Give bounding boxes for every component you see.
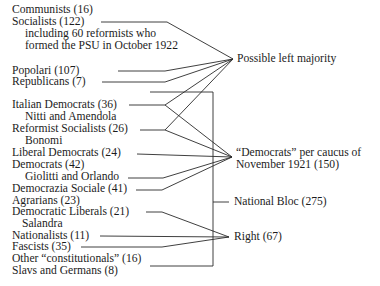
- group-left-majority: Possible left majority: [237, 53, 336, 65]
- party-republicans: Republicans (7): [12, 76, 86, 88]
- italian-democrats-to-democrats: [165, 105, 232, 157]
- liberal-democrats-connector: [137, 154, 232, 157]
- party-socialists-note-2: formed the PSU in October 1922: [25, 40, 178, 52]
- fascists-connector: [81, 237, 229, 247]
- reformist-socialists-to-democrats: [165, 130, 232, 157]
- group-right: Right (67): [234, 231, 282, 243]
- group-national-bloc: National Bloc (275): [234, 196, 327, 208]
- democrazia-sociale-connector: [136, 157, 232, 190]
- reformist-socialists-connector: [140, 59, 233, 130]
- giolitti-connector: [128, 157, 232, 178]
- party-slavs-germans: Slavs and Germans (8): [12, 265, 118, 277]
- nationalists-connector: [100, 236, 229, 237]
- group-democrats-caucus-line2: November 1921 (150): [236, 159, 339, 171]
- democratic-liberals-connector: [146, 212, 229, 237]
